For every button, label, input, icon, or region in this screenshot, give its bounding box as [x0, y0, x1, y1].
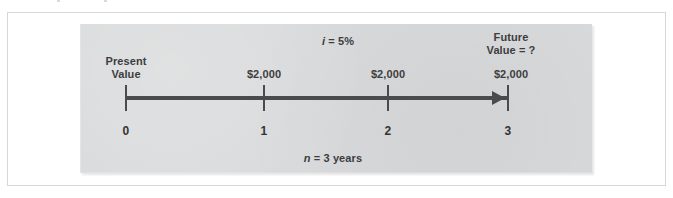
- present-value-line-2: Value: [111, 68, 140, 80]
- timeline-tick-label-3: 3: [505, 125, 512, 138]
- timeline-axis-line: [126, 96, 508, 100]
- timeline-diagram-panel: i = 5% FutureValue = ? PresentValue $2,0…: [80, 24, 592, 173]
- timeline-tick-label-0: 0: [123, 125, 130, 138]
- interest-rate-symbol: i: [322, 35, 325, 47]
- cash-flow-amount-period-3: $2,000: [494, 68, 528, 81]
- cash-flow-amount-period-1: $2,000: [247, 68, 281, 81]
- scan-artifact-dot: [57, 0, 60, 2]
- timeline-tick-label-2: 2: [385, 125, 392, 138]
- number-of-periods-label: n = 3 years: [304, 152, 362, 165]
- timeline-tick-0: [125, 85, 127, 111]
- interest-rate-value: 5%: [338, 35, 354, 47]
- timeline-tick-label-1: 1: [261, 125, 268, 138]
- timeline-arrow-head-icon: [492, 91, 505, 105]
- future-value-line-2: Value = ?: [487, 44, 536, 56]
- timeline-tick-2: [387, 85, 389, 111]
- present-value-label: PresentValue: [105, 55, 146, 80]
- number-of-periods-value: 3 years: [324, 152, 363, 164]
- future-value-line-1: Future: [494, 31, 529, 43]
- figure-frame: i = 5% FutureValue = ? PresentValue $2,0…: [7, 12, 666, 186]
- cash-flow-amount-period-2: $2,000: [371, 68, 405, 81]
- future-value-label: FutureValue = ?: [487, 31, 536, 56]
- scan-artifact-row: [0, 0, 673, 8]
- timeline-tick-1: [263, 85, 265, 111]
- timeline: [80, 96, 592, 126]
- number-of-periods-symbol: n: [304, 152, 311, 164]
- present-value-line-1: Present: [105, 55, 146, 67]
- interest-rate-label: i = 5%: [322, 35, 354, 48]
- scan-artifact-dot: [104, 0, 107, 2]
- timeline-tick-3: [507, 85, 509, 111]
